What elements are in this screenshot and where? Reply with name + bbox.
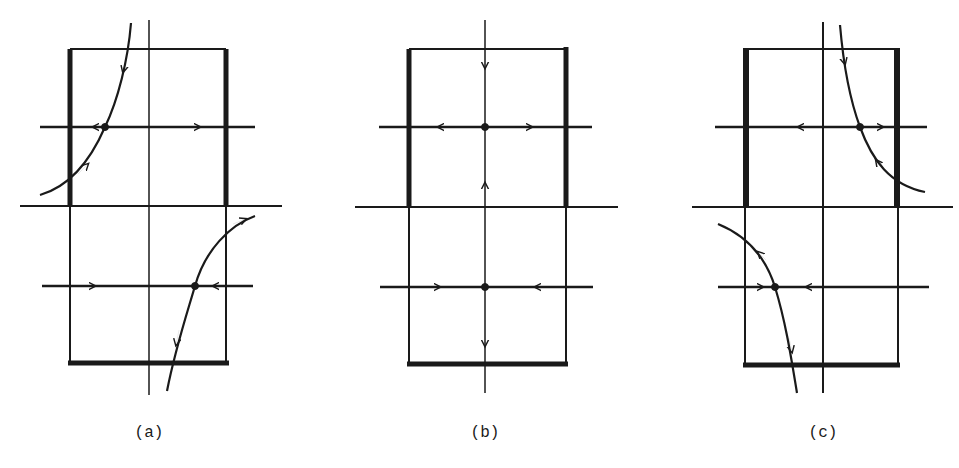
panel-c xyxy=(692,22,953,393)
panel-b xyxy=(355,20,618,393)
equilibrium-point xyxy=(482,124,489,131)
equilibrium-point xyxy=(772,284,779,291)
arrow-up-icon xyxy=(876,160,882,168)
phase-portrait-figure xyxy=(0,0,959,468)
panel-label-b: (b) xyxy=(471,424,500,442)
upper-trajectory xyxy=(840,25,925,192)
panel-a xyxy=(20,20,282,395)
equilibrium-point xyxy=(482,284,489,291)
equilibrium-point xyxy=(102,124,109,131)
equilibrium-point xyxy=(857,124,864,131)
lower-trajectory xyxy=(718,224,797,393)
panel-label-a: (a) xyxy=(135,424,164,442)
equilibrium-point xyxy=(192,283,199,290)
panel-label-c: (c) xyxy=(809,424,838,442)
